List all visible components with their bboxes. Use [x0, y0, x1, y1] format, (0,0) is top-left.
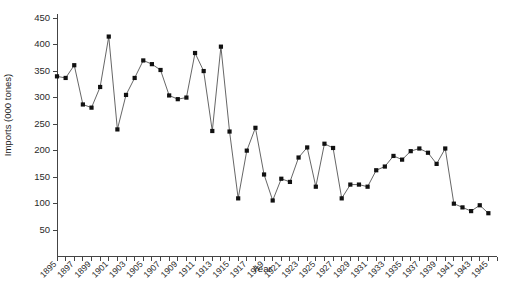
data-point — [348, 182, 352, 186]
y-axis-tick-label: 450 — [34, 12, 50, 23]
y-axis-title: Imports (000 tones) — [2, 74, 13, 156]
y-axis-tick-label: 200 — [34, 144, 50, 155]
y-axis-tick-label: 400 — [34, 38, 50, 49]
data-point — [435, 162, 439, 166]
data-point — [167, 93, 171, 97]
data-point — [55, 74, 59, 78]
data-point — [176, 97, 180, 101]
y-axis-tick-label: 350 — [34, 65, 50, 76]
data-point — [158, 68, 162, 72]
data-point — [296, 155, 300, 159]
data-point — [124, 93, 128, 97]
data-point — [305, 145, 309, 149]
data-point — [279, 177, 283, 181]
y-axis-tick-label: 250 — [34, 118, 50, 129]
data-point — [400, 158, 404, 162]
data-point — [227, 129, 231, 133]
x-axis-title: Year — [252, 263, 271, 274]
data-point — [210, 129, 214, 133]
data-point — [64, 76, 68, 80]
data-point — [374, 168, 378, 172]
data-point — [219, 45, 223, 49]
data-point — [98, 85, 102, 89]
data-point — [81, 102, 85, 106]
data-point — [262, 172, 266, 176]
data-point — [452, 202, 456, 206]
y-axis-tick-label: 50 — [39, 224, 50, 235]
data-point — [391, 154, 395, 158]
data-point — [133, 76, 137, 80]
data-point — [271, 198, 275, 202]
data-point — [253, 126, 257, 130]
data-point — [314, 185, 318, 189]
data-point — [72, 63, 76, 67]
data-point — [115, 127, 119, 131]
data-point — [340, 196, 344, 200]
data-point — [288, 180, 292, 184]
data-point — [478, 203, 482, 207]
plot-background — [0, 0, 520, 286]
data-point — [107, 34, 111, 38]
data-point — [322, 142, 326, 146]
data-point — [202, 69, 206, 73]
data-point — [89, 106, 93, 110]
data-point — [141, 58, 145, 62]
data-point — [460, 205, 464, 209]
data-point — [357, 182, 361, 186]
data-point — [245, 149, 249, 153]
data-point — [365, 185, 369, 189]
data-point — [409, 149, 413, 153]
data-point — [469, 209, 473, 213]
y-axis-tick-label: 100 — [34, 197, 50, 208]
data-point — [331, 146, 335, 150]
data-point — [193, 51, 197, 55]
data-point — [426, 151, 430, 155]
line-chart: 50100150200250300350400450 1895189718991… — [0, 0, 520, 286]
y-axis-tick-label: 300 — [34, 91, 50, 102]
data-point — [236, 196, 240, 200]
data-point — [184, 95, 188, 99]
data-point — [150, 62, 154, 66]
data-point — [486, 211, 490, 215]
data-point — [417, 146, 421, 150]
y-axis-tick-label: 150 — [34, 171, 50, 182]
chart-canvas: 50100150200250300350400450 1895189718991… — [0, 0, 520, 286]
data-point — [443, 146, 447, 150]
data-point — [383, 164, 387, 168]
